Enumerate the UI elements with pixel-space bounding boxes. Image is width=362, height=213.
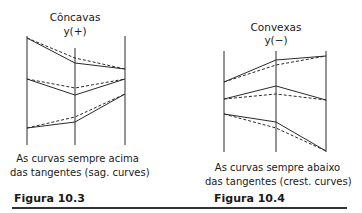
figure-10-3-rule xyxy=(12,207,179,209)
figure-10-4-title: Convexas xyxy=(243,21,309,33)
figure-10-4-diagram xyxy=(224,51,326,152)
figure-10-4-caption-line2: das tangentes (crest. curves) xyxy=(205,175,350,188)
figure-10-4-label: Figura 10.4 xyxy=(214,192,285,205)
figure-10-3-caption-line1: As curvas sempre acima xyxy=(10,152,145,165)
figure-10-3-diagram xyxy=(27,36,125,145)
figure-10-3-label: Figura 10.3 xyxy=(14,192,85,205)
figure-10-4-caption-line1: As curvas sempre abaixo xyxy=(205,161,350,174)
figure-10-3-caption-line2: das tangentes (sag. curves) xyxy=(10,166,145,179)
figure-10-4-rule xyxy=(179,207,347,209)
figure-10-3-title: Côncavas xyxy=(45,11,105,23)
figure-10-4-sign: y(−) xyxy=(243,34,309,46)
figure-10-3-sign: y(+) xyxy=(45,25,105,37)
